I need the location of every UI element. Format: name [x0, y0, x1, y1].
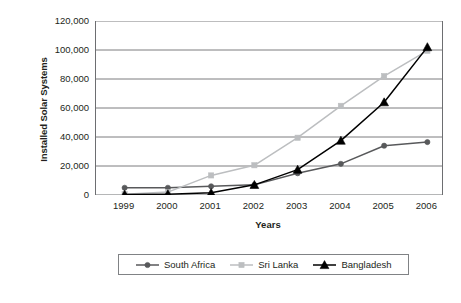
x-axis-tick-label: 2006	[400, 200, 452, 212]
y-axis-tick-label: 120,000	[33, 16, 89, 26]
x-axis-tick-labels: 19992000200120022003200420052006	[95, 200, 441, 216]
y-axis-tick-labels: 120,000100,00080,00060,00040,00020,0000	[33, 0, 89, 303]
legend-swatch-circle-icon	[135, 260, 160, 270]
y-axis-tick-label: 0	[33, 190, 89, 200]
y-axis-tick-label: 20,000	[33, 161, 89, 171]
data-point-marker	[145, 262, 150, 267]
series-sri-lanka	[122, 48, 430, 195]
y-axis-tick-label: 80,000	[33, 74, 89, 84]
plot-svg	[96, 21, 442, 195]
legend-label: South Africa	[164, 260, 215, 270]
legend-label: Sri Lanka	[258, 260, 298, 270]
data-point-marker	[425, 139, 430, 144]
line-chart: Installed Solar Systems 120,000100,00080…	[0, 0, 461, 303]
y-axis-tick-label: 40,000	[33, 132, 89, 142]
legend-entry: Sri Lanka	[229, 260, 298, 270]
legend-entry: Bangladesh	[312, 260, 391, 270]
series-south-africa	[122, 139, 430, 190]
data-point-marker	[209, 173, 214, 178]
y-axis-tick-label: 100,000	[33, 45, 89, 55]
series-line	[125, 51, 428, 195]
series-bangladesh	[120, 43, 432, 195]
data-point-marker	[423, 43, 432, 51]
series-line	[125, 142, 428, 188]
data-point-marker	[239, 262, 244, 267]
plot-area	[95, 21, 443, 195]
y-axis-tick-label: 60,000	[33, 103, 89, 113]
chart-legend: South AfricaSri LankaBangladesh	[118, 254, 409, 275]
data-point-marker	[338, 161, 343, 166]
legend-swatch-triangle-icon	[312, 260, 337, 270]
data-point-marker	[382, 143, 387, 148]
data-point-marker	[252, 163, 257, 168]
legend-entry: South Africa	[135, 260, 215, 270]
x-axis-title: Years	[95, 219, 441, 230]
data-point-marker	[295, 135, 300, 140]
gridlines	[96, 21, 442, 195]
series-layer	[120, 43, 432, 195]
data-point-marker	[382, 74, 387, 79]
data-point-marker	[338, 103, 343, 108]
legend-swatch-square-icon	[229, 260, 254, 270]
legend-label: Bangladesh	[341, 260, 391, 270]
series-line	[125, 47, 428, 194]
